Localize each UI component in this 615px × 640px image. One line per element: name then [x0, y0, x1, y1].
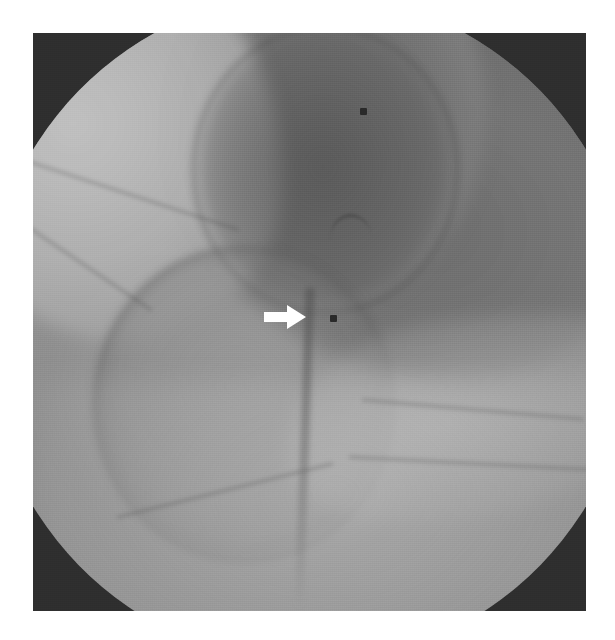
white-arrow-marker [263, 303, 307, 331]
radiograph-image [33, 33, 586, 611]
radiopaque-marker-inferior [330, 315, 337, 322]
lower-soft-tissue-region [35, 381, 586, 611]
page-root [0, 0, 615, 640]
image-intensifier-field [33, 33, 586, 611]
radiopaque-marker-superior [360, 108, 367, 115]
